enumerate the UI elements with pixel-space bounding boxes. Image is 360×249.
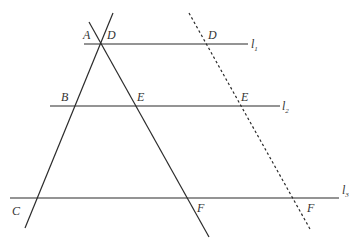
point-label-C: C <box>12 204 21 218</box>
point-label-F1: F <box>196 201 205 215</box>
point-label-A: A <box>82 28 91 42</box>
point-label-D1: D <box>106 28 116 42</box>
point-label-B: B <box>61 90 69 104</box>
point-label-F2: F <box>306 201 315 215</box>
line-label-l1: l1 <box>251 37 258 53</box>
line-label-l3: l3 <box>342 183 349 199</box>
transversal-line-DEF-translated <box>189 13 310 229</box>
transversal-line-DEF <box>89 22 209 237</box>
point-label-E2: E <box>240 90 249 104</box>
transversal-line-ABC <box>25 13 113 228</box>
point-label-D2: D <box>207 28 217 42</box>
line-label-l2: l2 <box>282 99 289 115</box>
geometry-diagram: l1l2l3ADDBEECFF <box>0 0 360 249</box>
point-label-E1: E <box>136 90 145 104</box>
